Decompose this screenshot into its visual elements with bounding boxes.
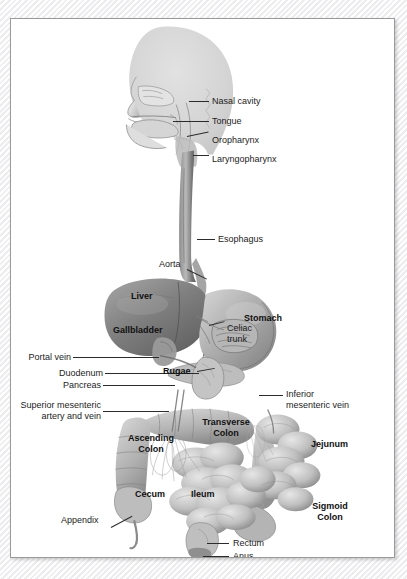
- label-rugae: Rugae: [163, 366, 191, 377]
- leader-portal-vein: [73, 357, 159, 358]
- label-sigmoid-colon-line1: Sigmoid: [312, 501, 348, 511]
- label-esophagus: Esophagus: [218, 234, 263, 245]
- label-duodenum: Duodenum: [41, 368, 103, 379]
- leader-superior-mesenteric: [103, 411, 169, 412]
- label-aorta: Aorta: [159, 259, 181, 270]
- label-superior-mesenteric: Superior mesenteric artery and vein: [13, 400, 101, 421]
- label-pancreas: Pancreas: [43, 380, 101, 391]
- label-oropharynx: Oropharynx: [212, 135, 259, 146]
- label-superior-mesenteric-line1: Superior mesenteric: [20, 400, 101, 410]
- leader-pancreas: [103, 385, 175, 386]
- label-celiac-trunk-line1: Celiac: [227, 323, 252, 333]
- leader-rectum: [207, 543, 229, 544]
- leader-esophagus: [197, 239, 215, 240]
- label-nasal-cavity: Nasal cavity: [212, 96, 261, 107]
- label-superior-mesenteric-line2: artery and vein: [41, 411, 101, 421]
- label-ascending-colon: Ascending Colon: [119, 433, 183, 454]
- label-portal-vein: Portal vein: [15, 352, 71, 363]
- label-stomach: Stomach: [244, 313, 282, 324]
- label-ascending-colon-line1: Ascending: [128, 433, 174, 443]
- label-inferior-mesenteric-line1: Inferior: [286, 389, 314, 399]
- label-tongue: Tongue: [212, 116, 242, 127]
- leader-laryngopharynx: [193, 155, 209, 156]
- label-liver: Liver: [131, 291, 153, 302]
- label-inferior-mesenteric: Inferior mesenteric vein: [286, 389, 349, 410]
- label-cecum: Cecum: [135, 489, 165, 500]
- leader-tongue: [173, 121, 209, 122]
- label-transverse-colon-line2: Colon: [213, 428, 239, 438]
- label-inferior-mesenteric-line2: mesenteric vein: [286, 400, 349, 410]
- label-appendix: Appendix: [61, 515, 99, 526]
- label-jejunum: Jejunum: [311, 439, 348, 450]
- label-sigmoid-colon: Sigmoid Colon: [301, 501, 359, 522]
- leader-inferior-mesenteric: [259, 395, 283, 396]
- label-laryngopharynx: Laryngopharynx: [212, 154, 277, 165]
- label-ileum: Ileum: [191, 489, 215, 500]
- anatomy-figure-frame: Nasal cavity Tongue Oropharynx Laryngoph…: [10, 18, 395, 558]
- label-celiac-trunk-line2: trunk: [227, 334, 247, 344]
- label-ascending-colon-line2: Colon: [138, 444, 164, 454]
- label-celiac-trunk: Celiac trunk: [227, 323, 252, 344]
- anatomy-illustration: [11, 19, 394, 557]
- label-transverse-colon: Transverse Colon: [191, 417, 261, 438]
- label-anus: Anus: [233, 551, 254, 558]
- label-sigmoid-colon-line2: Colon: [317, 512, 343, 522]
- label-rectum: Rectum: [233, 538, 264, 549]
- leader-anus: [203, 556, 229, 557]
- label-transverse-colon-line1: Transverse: [202, 417, 250, 427]
- leader-nasal-cavity: [189, 101, 209, 102]
- label-gallbladder: Gallbladder: [113, 325, 163, 336]
